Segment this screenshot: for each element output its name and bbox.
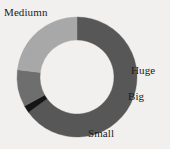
slice-label-huge: Huge bbox=[131, 64, 155, 76]
donut-chart: Mediumn Huge Big Small bbox=[0, 0, 170, 149]
slice-label-mediumn: Mediumn bbox=[4, 6, 47, 18]
slice-label-small: Small bbox=[88, 127, 114, 139]
donut-slice-small bbox=[17, 17, 77, 72]
slice-label-big: Big bbox=[128, 90, 144, 102]
donut-slice-group bbox=[17, 17, 137, 137]
